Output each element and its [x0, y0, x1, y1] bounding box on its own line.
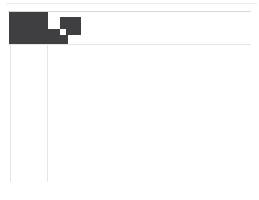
document-canvas: [0, 0, 259, 200]
header-notch-upper: [48, 12, 60, 29]
rule-column-middle: [47, 45, 48, 182]
rule-column-left: [10, 45, 11, 182]
rule-top-outer: [6, 3, 257, 4]
header-notch-inner: [60, 29, 66, 35]
rule-header-bottom: [8, 44, 251, 45]
header-block-primary: [9, 12, 48, 44]
